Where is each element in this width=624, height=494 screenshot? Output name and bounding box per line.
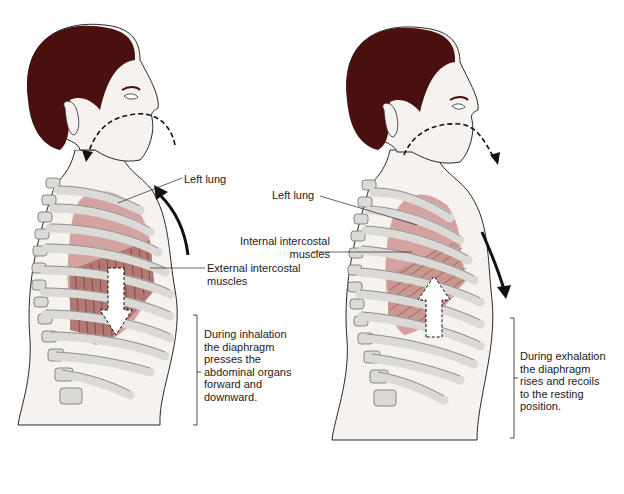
label-internal-intercostal-muscles: Internal intercostal muscles <box>240 235 330 260</box>
exhalation-figure: During exhalation the diaphragm rises an… <box>312 0 624 494</box>
label-left-lung: Left lung <box>184 173 226 186</box>
label-external-intercostal-muscles: External intercostal muscles <box>207 262 301 287</box>
exhalation-caption: During exhalation the diaphragm rises an… <box>520 350 606 413</box>
label-left-lung-exhalation: Left lung <box>272 189 314 202</box>
caption-bracket <box>510 318 518 438</box>
exhalation-illustration <box>312 0 624 494</box>
caption-bracket <box>193 315 201 425</box>
inhalation-caption: During inhalation the diaphragm presses … <box>204 328 291 403</box>
